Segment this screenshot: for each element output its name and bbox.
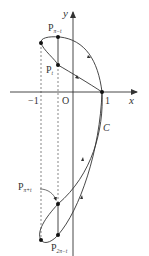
label-p-pi-minus-t-sub: π−t — [54, 28, 62, 34]
point-leftmost-bottom — [39, 238, 43, 242]
leader-arrow — [40, 189, 56, 200]
label-p-2pi-minus-t: P2π−t — [51, 242, 68, 254]
x-tick-minus-1: −1 — [28, 95, 39, 106]
label-p-t: Pt — [46, 64, 54, 76]
label-p-t-sub: t — [52, 70, 54, 76]
point-p-pi-plus-t — [56, 202, 60, 206]
point-p-2pi-minus-t — [56, 233, 60, 237]
label-p-pi-minus-t: Pπ−t — [48, 22, 62, 34]
curve-lower-loop — [40, 92, 103, 243]
x-axis-label: x — [128, 94, 134, 106]
point-p-t — [56, 63, 60, 67]
label-p-pi-plus-t: Pπ+t — [18, 181, 32, 193]
origin-label: O — [62, 95, 69, 106]
x-tick-1: 1 — [105, 95, 110, 106]
label-p-pi-plus-t-sub: π+t — [24, 187, 32, 193]
y-axis-label: y — [62, 7, 68, 19]
point-leftmost-top — [39, 41, 43, 45]
curve-label: C — [103, 122, 110, 133]
point-p-pi-minus-t — [56, 35, 60, 39]
label-p-2pi-minus-t-sub: 2π−t — [57, 248, 68, 254]
direction-arrow-icon — [81, 157, 84, 161]
diagram-canvas: y x O −1 1 C Pπ−t Pt Pπ+t P2π−t — [0, 0, 149, 256]
point-one-zero — [100, 90, 104, 94]
